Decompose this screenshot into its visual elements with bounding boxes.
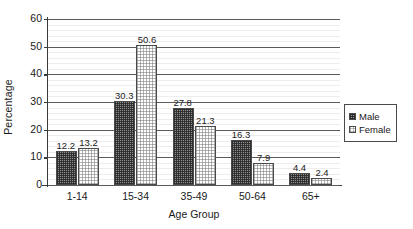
y-axis-tick-mark xyxy=(44,102,48,103)
female-swatch-icon xyxy=(349,126,356,133)
bar-group: 27.821.3 xyxy=(173,19,216,185)
y-axis-tick-label: 60 xyxy=(20,12,42,24)
bar-male-65+[interactable]: 4.4 xyxy=(289,173,310,185)
bar-group: 12.213.2 xyxy=(56,19,99,185)
legend-item-male-label: Male xyxy=(359,111,380,122)
y-axis-tick-mark xyxy=(44,157,48,158)
bar-group: 30.350.6 xyxy=(114,19,157,185)
bar-value-label: 4.4 xyxy=(293,162,306,173)
y-axis-tick-mark xyxy=(44,185,48,186)
bar-female-65+[interactable]: 2.4 xyxy=(311,178,332,185)
y-axis-tick-mark xyxy=(44,74,48,75)
bar-value-label: 27.8 xyxy=(173,97,192,108)
y-axis-tick-label: 0 xyxy=(20,178,42,190)
y-axis-tick-mark xyxy=(44,19,48,20)
male-swatch-icon xyxy=(349,113,356,120)
x-axis-tick-label: 65+ xyxy=(269,190,353,202)
bar-value-label: 2.4 xyxy=(315,167,328,178)
bar-group: 4.42.4 xyxy=(289,19,332,185)
y-axis-tick-mark xyxy=(44,47,48,48)
bar-male-1-14[interactable]: 12.2 xyxy=(56,151,77,185)
bar-value-label: 30.3 xyxy=(115,90,134,101)
bar-value-label: 21.3 xyxy=(196,115,215,126)
legend-item-male[interactable]: Male xyxy=(349,111,391,122)
y-axis-tick-label: 50 xyxy=(20,40,42,52)
bar-female-15-34[interactable]: 50.6 xyxy=(136,45,157,185)
y-axis-tick-label: 10 xyxy=(20,150,42,162)
y-axis-title: Percentage xyxy=(2,0,16,52)
x-axis-title: Age Group xyxy=(48,208,340,220)
bar-female-50-64[interactable]: 7.9 xyxy=(253,163,274,185)
bar-chart: Percentage 12.213.230.350.627.821.316.37… xyxy=(0,0,413,229)
bar-value-label: 7.9 xyxy=(257,152,270,163)
bar-value-label: 50.6 xyxy=(138,34,157,45)
y-axis-tick-label: 20 xyxy=(20,123,42,135)
legend: Male Female xyxy=(344,104,397,142)
gridline-major xyxy=(48,185,340,186)
bar-group: 16.37.9 xyxy=(231,19,274,185)
bar-value-label: 13.2 xyxy=(79,137,97,148)
y-axis-tick-label: 40 xyxy=(20,67,42,79)
bar-male-50-64[interactable]: 16.3 xyxy=(231,140,252,185)
bar-value-label: 16.3 xyxy=(232,129,251,140)
legend-item-female-label: Female xyxy=(359,124,391,135)
legend-item-female[interactable]: Female xyxy=(349,124,391,135)
bar-male-15-34[interactable]: 30.3 xyxy=(114,101,135,185)
y-axis-title-text: Percentage xyxy=(2,52,14,162)
bar-male-35-49[interactable]: 27.8 xyxy=(173,108,194,185)
y-axis-tick-mark xyxy=(44,130,48,131)
y-axis-tick-label: 30 xyxy=(20,95,42,107)
bar-value-label: 12.2 xyxy=(57,140,76,151)
plot-area: 12.213.230.350.627.821.316.37.94.42.4 xyxy=(48,19,340,185)
bar-female-35-49[interactable]: 21.3 xyxy=(195,126,216,185)
bar-female-1-14[interactable]: 13.2 xyxy=(78,148,99,185)
